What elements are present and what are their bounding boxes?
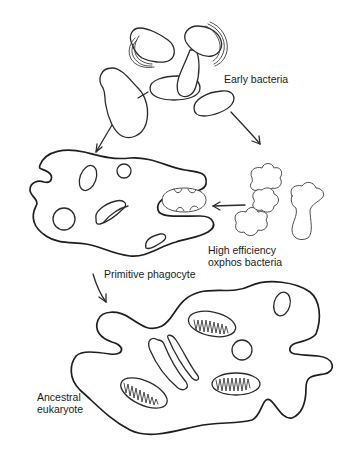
engulfed-bacterium [162,188,206,212]
bacterium-large-bean [100,68,148,138]
oxphos-bacterium-2 [235,208,267,236]
oxphos-bacterium-4 [291,182,324,239]
arrow-oxphos-to-phagocyte [213,202,245,210]
label-early-bacteria: Early bacteria [224,73,288,85]
bacterium-dividing-right [177,22,227,97]
eukaryote-membrane [71,282,332,435]
ancestral-eukaryote-cell [71,282,332,435]
oxphos-bacterium-3 [253,188,279,212]
early-bacteria-cluster [100,22,234,138]
label-primitive-phagocyte: Primitive phagocyte [104,268,196,280]
primitive-phagocyte-cell [30,150,214,256]
label-ancestral-line1: Ancestral [37,391,81,403]
oxphos-bacteria-cluster [235,164,324,240]
label-high-efficiency-line2: oxphos bacteria [208,256,282,268]
bacterium-dividing-left [129,28,174,68]
label-ancestral-line2: eukaryote [37,403,83,415]
arrow-early-to-phagocyte [96,125,112,152]
arrow-early-to-oxphos [231,112,260,144]
bacterium-oval-right [194,91,234,116]
label-high-efficiency-line1: High efficiency [208,244,276,256]
